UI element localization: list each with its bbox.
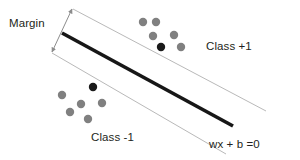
support-vector-point — [157, 43, 165, 51]
margin-label: Margin — [9, 17, 45, 30]
svm-margin-diagram: Margin Class +1 Class -1 wx + b =0 — [0, 0, 300, 160]
upper-margin-line — [73, 9, 266, 111]
class-negative-points — [58, 83, 106, 123]
diagram-canvas — [0, 0, 300, 160]
data-point — [170, 31, 178, 39]
data-point — [177, 43, 185, 51]
data-point — [98, 99, 106, 107]
hyperplane-equation-label: wx + b =0 — [209, 138, 260, 151]
support-vector-point — [89, 83, 97, 91]
data-point — [149, 32, 157, 40]
class-positive-points — [139, 18, 185, 51]
data-point — [84, 115, 92, 123]
data-point — [58, 91, 66, 99]
data-point — [139, 18, 147, 26]
data-point — [77, 100, 85, 108]
class-positive-label: Class +1 — [206, 40, 252, 53]
data-point — [152, 18, 160, 26]
data-point — [66, 108, 74, 116]
class-negative-label: Class -1 — [91, 131, 134, 144]
margin-arrow — [52, 9, 72, 52]
